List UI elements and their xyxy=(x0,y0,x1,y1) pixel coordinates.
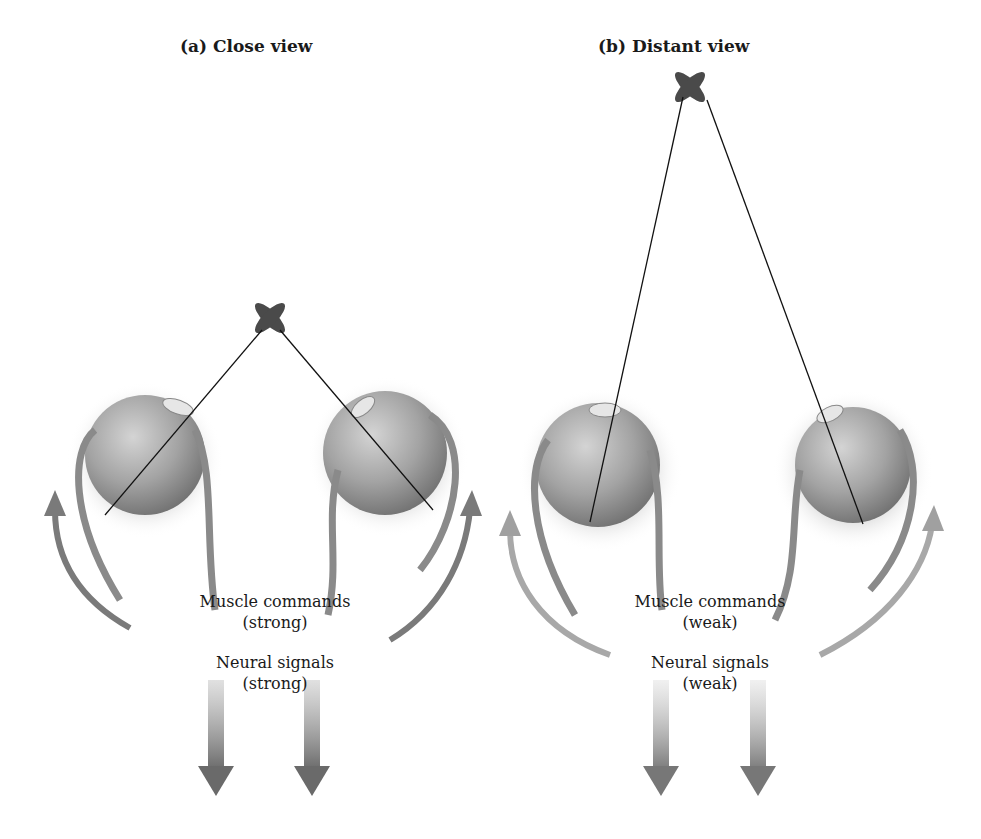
left-eyeball-icon xyxy=(518,388,682,615)
muscle-strength-text: (weak) xyxy=(595,612,825,633)
neural-arrow-left-icon xyxy=(198,680,234,796)
target-x-icon xyxy=(251,299,289,337)
neural-signals-text: Neural signals xyxy=(160,652,390,673)
neural-signals-text: Neural signals xyxy=(595,652,825,673)
muscle-commands-text: Muscle commands xyxy=(160,591,390,612)
panel-b-neural-label: Neural signals (weak) xyxy=(595,652,825,694)
target-x-icon xyxy=(671,68,709,106)
right-eyeball-icon xyxy=(308,377,468,615)
muscle-commands-text: Muscle commands xyxy=(595,591,825,612)
muscle-strength-text: (strong) xyxy=(160,612,390,633)
neural-strength-text: (strong) xyxy=(160,673,390,694)
left-eyeball-icon xyxy=(67,382,223,610)
panel-a-muscle-label: Muscle commands (strong) xyxy=(160,591,390,633)
neural-arrow-right-icon xyxy=(740,680,776,796)
panel-b-muscle-label: Muscle commands (weak) xyxy=(595,591,825,633)
panel-a-figure xyxy=(44,299,482,796)
neural-arrow-left-icon xyxy=(643,680,679,796)
diagram-canvas xyxy=(0,0,981,839)
neural-arrow-right-icon xyxy=(294,680,330,796)
neural-strength-text: (weak) xyxy=(595,673,825,694)
panel-a-neural-label: Neural signals (strong) xyxy=(160,652,390,694)
